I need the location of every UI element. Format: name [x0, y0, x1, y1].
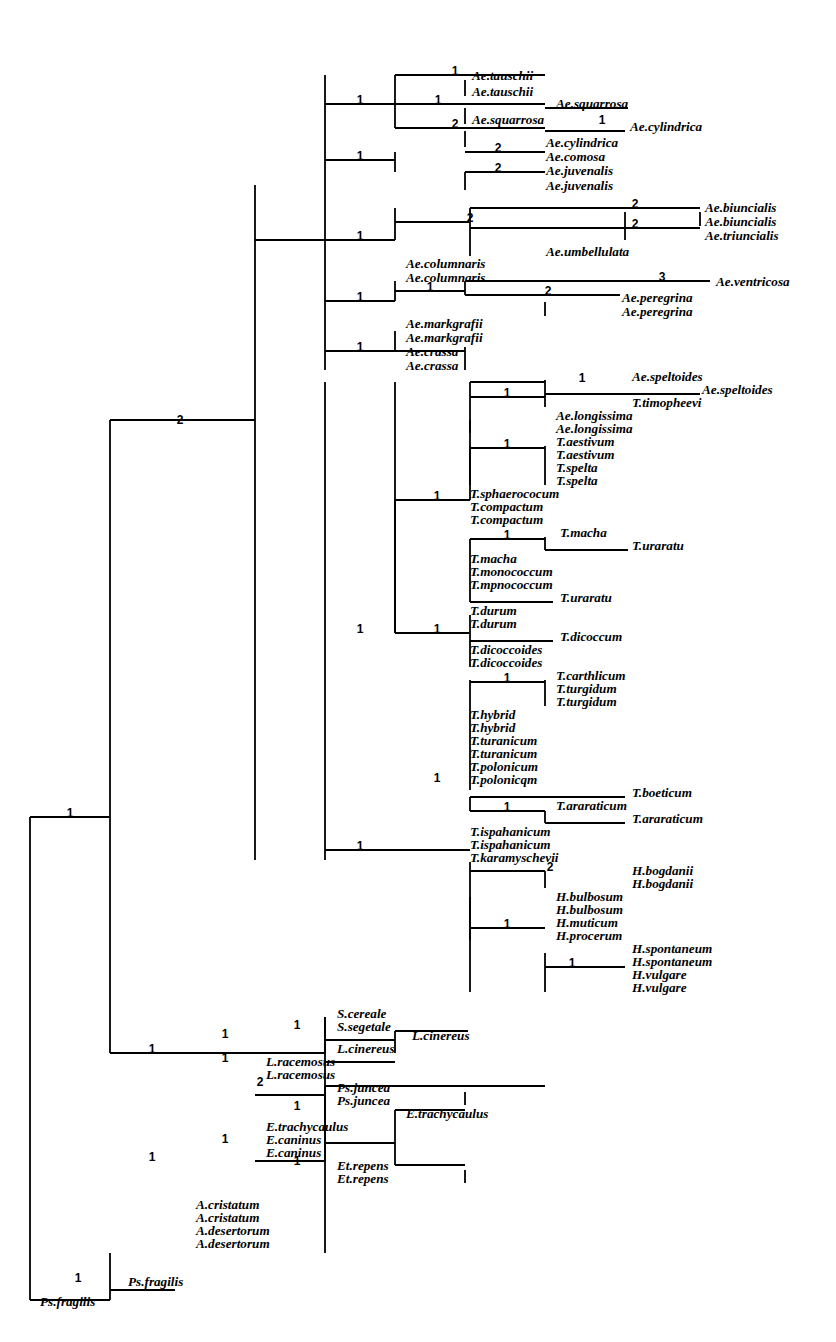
branch-length-number: 1 [504, 917, 511, 931]
taxon-label: T.durum [470, 616, 517, 631]
branch-length-number: 1 [222, 1027, 229, 1041]
taxon-label: H.vulgare [631, 980, 687, 995]
taxon-label: Ae.speltoides [631, 369, 703, 384]
taxon-label: Ae.biuncialis [704, 214, 776, 229]
branch-length-number: 1 [222, 1051, 229, 1065]
branch-length-number: 1 [357, 622, 364, 636]
branch-length-number: 1 [435, 93, 442, 107]
branch-length-number: 2 [632, 217, 639, 231]
taxon-label: Ae.columnaris [405, 270, 486, 285]
branch-length-number: 1 [504, 671, 511, 685]
branch-length-number: 1 [434, 622, 441, 636]
taxon-label: Ae.tauschii [471, 84, 534, 99]
taxon-label: Ae.ventricosa [715, 274, 790, 289]
branch-length-number: 1 [294, 1018, 301, 1032]
taxon-label: T.macha [560, 525, 607, 540]
branch-length-number: 1 [504, 386, 511, 400]
taxon-label: T.polonicqm [470, 772, 537, 787]
branch-length-number: 2 [545, 284, 552, 298]
taxon-label: H.bogdanii [631, 876, 694, 891]
branch-length-number: 1 [569, 956, 576, 970]
taxon-label: Ae.umbellulata [545, 244, 630, 259]
taxon-label: Ae.markgrafii [405, 316, 483, 331]
branch-length-number: 1 [67, 806, 74, 820]
taxon-label: A.desertorum [195, 1236, 270, 1251]
taxon-label: T.boeticum [632, 785, 692, 800]
cladogram-canvas: 1112121222213211111111111112112111111211… [0, 0, 836, 1342]
taxon-label: Ae.peregrina [621, 290, 693, 305]
taxon-label: Ps.juncea [337, 1093, 391, 1108]
branch-length-number: 3 [659, 270, 666, 284]
taxon-label: Ae.squarrosa [471, 112, 545, 127]
taxon-label: Ae.cylindrica [545, 135, 619, 150]
taxon-label: Ae.juvenalis [545, 178, 613, 193]
taxon-label: S.segetale [337, 1019, 391, 1034]
taxon-label: T.uraratu [632, 538, 684, 553]
taxon-label: T.dicoccoides [470, 655, 542, 670]
taxon-label: Ae.speltoides [701, 382, 773, 397]
branch-length-number: 2 [177, 413, 184, 427]
taxon-label: T.uraratu [560, 590, 612, 605]
taxon-label: Ae.triuncialis [704, 228, 779, 243]
phylogenetic-tree-figure: 1112121222213211111111111112112111111211… [0, 0, 836, 1342]
branch-length-number: 1 [357, 290, 364, 304]
branch-length-number: 1 [357, 340, 364, 354]
taxon-label: Ae.peregrina [621, 304, 693, 319]
taxon-label: T.spelta [556, 473, 598, 488]
taxon-label: L.cinereus [411, 1028, 470, 1043]
taxon-label: T.araraticum [556, 798, 627, 813]
taxon-label: T.turgidum [556, 694, 617, 709]
taxon-label: T.dicoccum [560, 629, 622, 644]
branch-length-number: 2 [467, 211, 474, 225]
branch-length-number: 1 [504, 437, 511, 451]
taxon-label: Ae.tauschii [471, 68, 534, 83]
branch-length-number: 1 [357, 229, 364, 243]
taxon-label: Ae.cylindrica [629, 119, 703, 134]
branch-length-number: 2 [452, 117, 459, 131]
taxon-label: Et.repens [336, 1171, 389, 1186]
branch-length-number: 1 [579, 371, 586, 385]
taxon-label: H.procerum [555, 928, 622, 943]
taxon-labels: Ae.tauschiiAe.tauschiiAe.squarrosaAe.squ… [40, 68, 790, 1309]
taxon-label: Ps.fragilis [128, 1274, 183, 1289]
taxon-label: L.cinereus [336, 1041, 395, 1056]
taxon-label: Ae.columnaris [405, 256, 486, 271]
branch-length-number: 1 [357, 93, 364, 107]
branch-length-number: 2 [495, 141, 502, 155]
branch-length-number: 1 [452, 64, 459, 78]
branch-length-number: 2 [257, 1075, 264, 1089]
branch-length-number: 1 [504, 800, 511, 814]
taxon-label: Ae.markgrafii [405, 330, 483, 345]
taxon-label: Ae.juvenalis [545, 163, 613, 178]
branch-length-number: 1 [504, 528, 511, 542]
taxon-label: T.compactum [470, 512, 543, 527]
branch-length-number: 2 [632, 197, 639, 211]
taxon-label: T.karamyschevii [470, 850, 559, 865]
taxon-label: Ae.crassa [405, 358, 459, 373]
taxon-label: Ae.squarrosa [555, 96, 629, 111]
taxon-label: Ae.comosa [545, 149, 605, 164]
taxon-label: E.caninus [265, 1145, 321, 1160]
branch-length-number: 1 [434, 489, 441, 503]
branch-length-number: 1 [434, 771, 441, 785]
branch-length-number: 1 [599, 113, 606, 127]
branch-length-number: 1 [294, 1099, 301, 1113]
branch-length-number: 1 [149, 1150, 156, 1164]
branch-length-number: 2 [495, 161, 502, 175]
taxon-label: Ae.biuncialis [704, 200, 776, 215]
taxon-label: E.trachycaulus [405, 1106, 488, 1121]
taxon-label: Ps.fragilis [40, 1294, 95, 1309]
taxon-label: L.racemosus [265, 1067, 335, 1082]
taxon-label: Ae.crassa [405, 344, 459, 359]
taxon-label: T.mpnococcum [470, 577, 553, 592]
branch-length-number: 1 [357, 149, 364, 163]
branch-length-number: 1 [149, 1042, 156, 1056]
branch-length-number: 1 [222, 1132, 229, 1146]
taxon-label: T.araraticum [632, 811, 703, 826]
branch-length-number: 1 [357, 839, 364, 853]
taxon-label: T.timopheevi [632, 395, 702, 410]
branch-length-number: 1 [75, 1271, 82, 1285]
